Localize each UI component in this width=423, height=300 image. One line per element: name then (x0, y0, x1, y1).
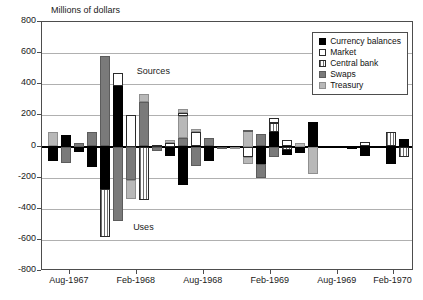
legend-label: Currency balances (330, 36, 401, 47)
x-tick-mark (69, 270, 70, 274)
bar-segment-treasury (178, 116, 188, 138)
bar-segment-centralbank (269, 123, 279, 132)
legend-item-market[interactable]: Market (315, 47, 405, 58)
legend-item-swaps[interactable]: Swaps (315, 69, 405, 80)
bar-segment-swaps (256, 164, 266, 178)
bar-segment-treasury (191, 129, 201, 131)
gridline (42, 209, 412, 210)
bar-segment-currency (347, 147, 357, 149)
bar-segment-swaps (243, 130, 253, 132)
bar-segment-centralbank (100, 189, 110, 236)
bar-segment-swaps (217, 147, 227, 149)
bar-segment-swaps (178, 138, 188, 147)
bar-segment-swaps (61, 147, 71, 163)
bar-segment-treasury (126, 180, 136, 199)
bar-segment-currency (399, 139, 409, 147)
bar-segment-centralbank (399, 147, 409, 158)
legend-item-centralbank[interactable]: Central bank (315, 58, 405, 69)
bar-segment-swaps (113, 147, 123, 222)
y-tick-mark (37, 239, 41, 240)
bar-segment-currency (113, 86, 123, 147)
bar-segment-treasury (165, 140, 175, 142)
annotation-sources: Sources (137, 66, 170, 76)
y-tick-mark (37, 177, 41, 178)
bar-segment-treasury (308, 147, 318, 174)
y-tick-label: -600 (4, 233, 36, 243)
y-tick-mark (37, 146, 41, 147)
bar-segment-swaps (126, 147, 136, 180)
legend-swatch-centralbank-icon (319, 60, 326, 67)
bar-segment-currency (74, 147, 84, 152)
bar-segment-treasury (243, 131, 253, 147)
y-tick-mark (37, 21, 41, 22)
bar-segment-market (126, 115, 136, 146)
bar-segment-currency (165, 147, 175, 156)
legend-label: Central bank (330, 58, 378, 69)
bar-segment-currency (282, 150, 292, 155)
bar-segment-centralbank (139, 147, 149, 201)
y-tick-label: 0 (4, 140, 36, 150)
legend-item-currency[interactable]: Currency balances (315, 36, 405, 47)
bar-segment-swaps (191, 147, 201, 166)
x-tick-label: Feb-1970 (358, 275, 423, 285)
x-tick-mark (136, 270, 137, 274)
legend-swatch-currency-icon (319, 38, 326, 45)
y-tick-label: 800 (4, 15, 36, 25)
bar-segment-currency (87, 147, 97, 167)
bar-segment-treasury (139, 94, 149, 103)
bar-segment-currency (269, 132, 279, 147)
annotation-uses: Uses (133, 222, 154, 232)
bar-segment-treasury (48, 132, 58, 146)
legend-label: Treasury (330, 80, 363, 91)
bar-segment-swaps (87, 132, 97, 146)
legend-label: Swaps (330, 69, 356, 80)
y-tick-label: 600 (4, 46, 36, 56)
bar-segment-swaps (152, 147, 162, 152)
bar-segment-market (178, 113, 188, 116)
bar-segment-swaps (139, 102, 149, 146)
y-tick-label: -200 (4, 171, 36, 181)
bar-segment-market (113, 73, 123, 85)
bar-segment-swaps (204, 138, 214, 147)
bar-segment-currency (360, 147, 370, 156)
chart-root: Millions of dollars SourcesUses Currency… (0, 0, 423, 300)
y-tick-label: 200 (4, 108, 36, 118)
y-tick-mark (37, 270, 41, 271)
x-tick-mark (393, 270, 394, 274)
bar-segment-currency (61, 135, 71, 147)
x-tick-label: Aug-1968 (168, 275, 238, 285)
y-tick-label: -400 (4, 202, 36, 212)
plot-area: SourcesUses Currency balancesMarketCentr… (41, 21, 413, 270)
legend-swatch-swaps-icon (319, 71, 326, 78)
bar-segment-market (191, 132, 201, 147)
x-tick-mark (203, 270, 204, 274)
chart-legend: Currency balancesMarketCentral bankSwaps… (312, 32, 408, 95)
bar-segment-currency (308, 122, 318, 147)
gridline (42, 178, 412, 179)
bar-segment-centralbank (386, 132, 396, 146)
legend-item-treasury[interactable]: Treasury (315, 80, 405, 91)
x-tick-mark (337, 270, 338, 274)
bar-segment-treasury (243, 157, 253, 163)
bar-segment-treasury (230, 147, 240, 149)
x-tick-mark (270, 270, 271, 274)
x-tick-label: Aug-1967 (34, 275, 104, 285)
legend-label: Market (330, 47, 356, 58)
bar-segment-currency (295, 147, 305, 153)
y-tick-label: -800 (4, 264, 36, 274)
y-axis-title: Millions of dollars (51, 5, 120, 15)
bar-segment-currency (204, 147, 214, 162)
bar-segment-market (269, 118, 279, 123)
gridline (42, 240, 412, 241)
bar-segment-currency (178, 147, 188, 185)
y-tick-label: 400 (4, 77, 36, 87)
y-tick-mark (37, 52, 41, 53)
y-tick-mark (37, 83, 41, 84)
bar-segment-currency (386, 147, 396, 165)
bar-segment-currency (100, 147, 110, 190)
x-tick-label: Feb-1969 (235, 275, 305, 285)
gridline (42, 115, 412, 116)
legend-swatch-treasury-icon (319, 82, 326, 89)
bar-segment-treasury (178, 109, 188, 113)
bar-segment-swaps (256, 134, 266, 146)
